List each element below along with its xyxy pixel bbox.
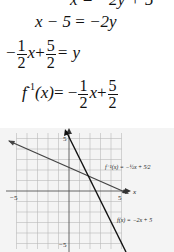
numerator: 1 bbox=[17, 38, 27, 55]
equation-line-1: x − 5 = −2y bbox=[35, 13, 117, 30]
tick-label-x-5: 5 bbox=[118, 194, 122, 202]
numerator: 5 bbox=[108, 78, 118, 95]
tick-label-x-neg5: −5 bbox=[10, 194, 18, 202]
equation-line-0: x = −2y + 5 bbox=[70, 0, 154, 8]
equals-y: = y bbox=[57, 43, 80, 62]
function-label: f(x) = −2x + 5 bbox=[117, 217, 152, 224]
equals-sign: = bbox=[75, 12, 85, 31]
plus-sign: + bbox=[97, 83, 107, 102]
fraction-five-halves: 52 bbox=[46, 38, 56, 71]
variable-x: x bbox=[28, 43, 36, 62]
fraction-five-halves: 52 bbox=[108, 78, 118, 111]
graph-background bbox=[0, 128, 174, 252]
plus-sign: + bbox=[35, 43, 45, 62]
equation-line-2: −12x+52= y bbox=[6, 38, 80, 71]
tick-label-y-5: 5 bbox=[63, 135, 67, 143]
tick-label-y-neg5: −5 bbox=[59, 241, 67, 249]
equation-text: x = −2y + 5 bbox=[70, 0, 154, 9]
minus-sign: − bbox=[6, 43, 16, 62]
inverse-superscript: -1 bbox=[27, 81, 35, 92]
coordinate-graph: x y −5 5 5 −5 f⁻¹(x) = −½x + 5⁄2 f(x) = … bbox=[0, 128, 174, 252]
numerator: 1 bbox=[78, 78, 88, 95]
variable-x: x bbox=[89, 83, 97, 102]
denominator: 2 bbox=[46, 55, 56, 71]
equation-rhs: −2y bbox=[89, 12, 117, 31]
denominator: 2 bbox=[108, 95, 118, 111]
equals-minus: = − bbox=[54, 83, 77, 102]
equation-line-3: f-1(x)= −12x+52 bbox=[22, 78, 119, 111]
fraction-one-half: 12 bbox=[17, 38, 27, 71]
denominator: 2 bbox=[17, 55, 27, 71]
denominator: 2 bbox=[78, 95, 88, 111]
fraction-one-half: 12 bbox=[78, 78, 88, 111]
equation-lhs: x − 5 bbox=[35, 12, 71, 31]
inverse-function-label: f⁻¹(x) = −½x + 5⁄2 bbox=[105, 164, 151, 171]
numerator: 5 bbox=[46, 38, 56, 55]
function-arg: (x) bbox=[35, 83, 54, 102]
